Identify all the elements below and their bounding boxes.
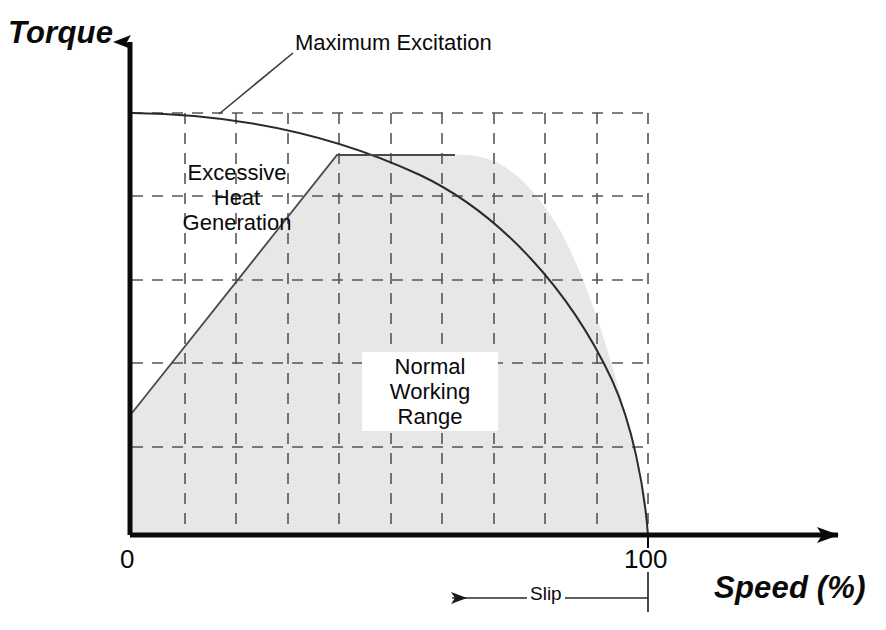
- annotation-excessive-heat-generation: Excessive Heat Generation: [147, 160, 327, 235]
- x-tick-label-0: 0: [120, 545, 134, 575]
- annotation-normal-working-range: Normal Working Range: [362, 352, 498, 431]
- chart-canvas: [0, 0, 886, 630]
- y-axis-label: Torque: [8, 15, 113, 50]
- max-excitation-leader-line: [219, 53, 293, 114]
- annotation-max-excitation: Maximum Excitation: [295, 30, 492, 55]
- torque-speed-figure: Torque Speed (%) Maximum Excitation Exce…: [0, 0, 886, 630]
- annotation-slip: Slip: [527, 583, 565, 605]
- x-tick-label-100: 100: [624, 545, 667, 575]
- x-axis-label: Speed (%): [714, 570, 866, 605]
